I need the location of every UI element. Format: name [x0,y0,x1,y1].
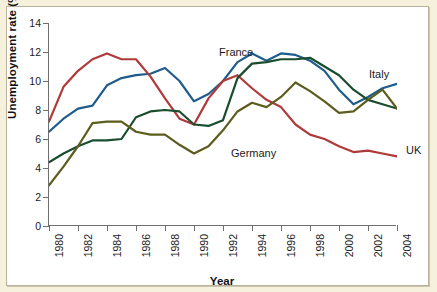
x-tick-1992 [223,225,224,231]
y-tick-label-2: 2 [35,192,41,203]
y-tick-label-4: 4 [35,163,41,174]
y-tick-label-0: 0 [35,221,41,232]
y-tick-2 [43,197,49,198]
x-tick-1990 [194,225,195,231]
series-label-germany: Germany [231,148,276,159]
y-tick-label-6: 6 [35,134,41,145]
x-tick-1988 [165,225,166,231]
x-axis-label: Year [48,275,396,287]
x-tick-1986 [136,225,137,231]
y-tick-label-8: 8 [35,105,41,116]
series-label-uk: UK [406,145,421,156]
y-tick-8 [43,110,49,111]
x-tick-1982 [78,225,79,231]
y-tick-6 [43,139,49,140]
y-tick-label-10: 10 [29,76,41,87]
y-tick-14 [43,23,49,24]
x-tick-label-1992: 1992 [228,234,239,257]
x-tick-1996 [281,225,282,231]
x-tick-label-1988: 1988 [170,234,181,257]
x-tick-1984 [107,225,108,231]
x-tick-label-2004: 2004 [402,234,413,257]
y-tick-10 [43,81,49,82]
figure-background: Unemployment rate (%) Year 02468101214 1… [0,0,437,292]
series-label-france: France [219,47,253,58]
y-tick-12 [43,52,49,53]
x-tick-2002 [368,225,369,231]
y-tick-label-12: 12 [29,47,41,58]
x-tick-1980 [49,225,50,231]
x-tick-2000 [339,225,340,231]
x-tick-label-1984: 1984 [112,234,123,257]
figure-card: Unemployment rate (%) Year 02468101214 1… [6,6,429,286]
x-tick-label-2000: 2000 [344,234,355,257]
x-tick-label-1986: 1986 [141,234,152,257]
y-tick-4 [43,168,49,169]
x-tick-1994 [252,225,253,231]
x-tick-label-1996: 1996 [286,234,297,257]
series-line-italy [49,58,397,162]
x-tick-2004 [397,225,398,231]
y-axis-label: Unemployment rate (%) [6,0,18,119]
series-line-germany [49,82,397,185]
x-tick-label-1990: 1990 [199,234,210,257]
x-tick-label-1982: 1982 [83,234,94,257]
x-tick-label-2002: 2002 [373,234,384,257]
x-tick-label-1998: 1998 [315,234,326,257]
x-tick-label-1980: 1980 [54,234,65,257]
x-tick-label-1994: 1994 [257,234,268,257]
y-tick-label-14: 14 [29,18,41,29]
series-label-italy: Italy [369,69,389,80]
x-tick-1998 [310,225,311,231]
